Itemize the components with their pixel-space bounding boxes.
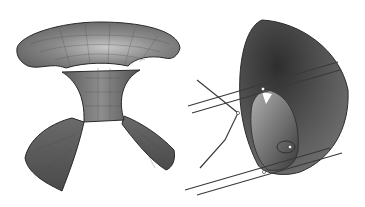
brim xyxy=(17,22,180,68)
marker-point xyxy=(261,87,265,91)
lower-left-lobe xyxy=(25,118,84,191)
marker-point xyxy=(236,111,239,114)
left-surface xyxy=(17,22,180,191)
figure xyxy=(0,0,365,207)
right-surface xyxy=(185,20,348,195)
lower-right-lobe xyxy=(122,116,175,170)
marker-point xyxy=(262,170,265,173)
marker-point xyxy=(288,145,292,149)
surfaces-illustration xyxy=(0,0,365,207)
